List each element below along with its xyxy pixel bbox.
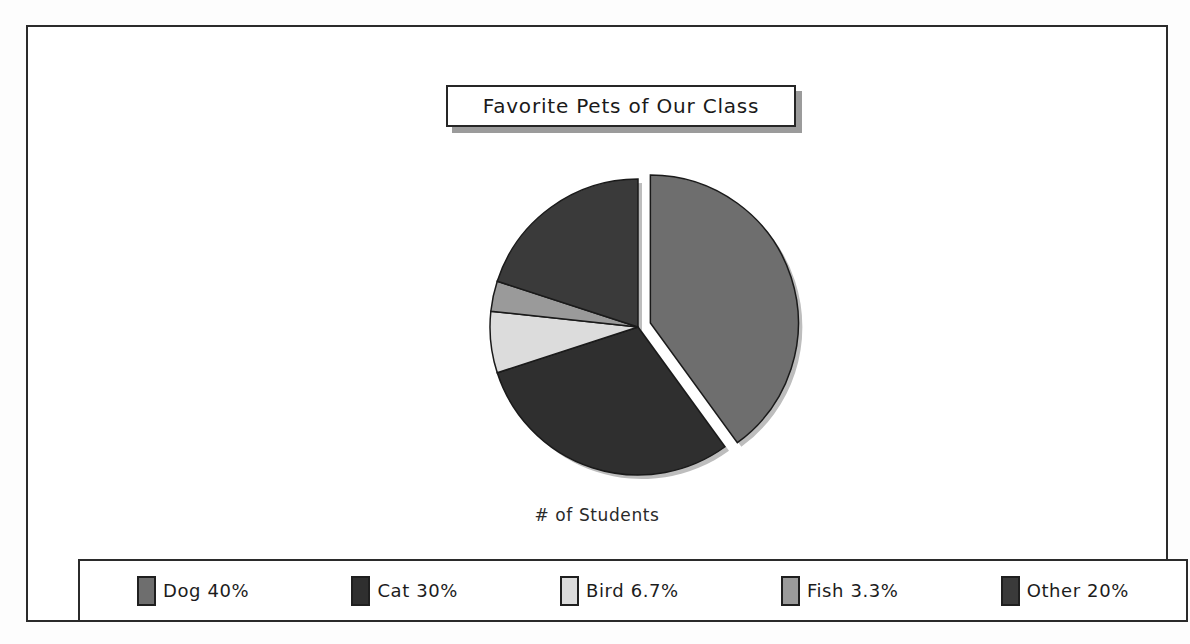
legend-item-label: Cat 30% — [377, 580, 458, 601]
legend-item-label: Dog 40% — [163, 580, 249, 601]
legend-item-label: Fish 3.3% — [807, 580, 899, 601]
legend-swatch-icon — [137, 576, 156, 606]
legend-item-label: Other 20% — [1027, 580, 1129, 601]
chart-legend: Dog 40%Cat 30%Bird 6.7%Fish 3.3%Other 20… — [78, 559, 1188, 622]
chart-title: Favorite Pets of Our Class — [483, 94, 760, 118]
legend-swatch-icon — [781, 576, 800, 606]
legend-item[interactable]: Cat 30% — [351, 576, 458, 606]
legend-item[interactable]: Dog 40% — [137, 576, 249, 606]
legend-item[interactable]: Other 20% — [1001, 576, 1129, 606]
pie-chart-svg — [458, 167, 828, 487]
chart-title-box[interactable]: Favorite Pets of Our Class — [446, 85, 796, 127]
legend-swatch-icon — [1001, 576, 1020, 606]
legend-swatch-icon — [351, 576, 370, 606]
chart-frame: Favorite Pets of Our Class # of Students… — [26, 25, 1168, 622]
pie-slice-group — [490, 175, 798, 475]
chart-axis-label: # of Students — [28, 505, 1166, 525]
pie-chart — [458, 167, 828, 487]
legend-item[interactable]: Fish 3.3% — [781, 576, 899, 606]
legend-item-label: Bird 6.7% — [586, 580, 679, 601]
legend-item[interactable]: Bird 6.7% — [560, 576, 679, 606]
legend-swatch-icon — [560, 576, 579, 606]
screenshot-canvas: Favorite Pets of Our Class # of Students… — [0, 0, 1190, 644]
